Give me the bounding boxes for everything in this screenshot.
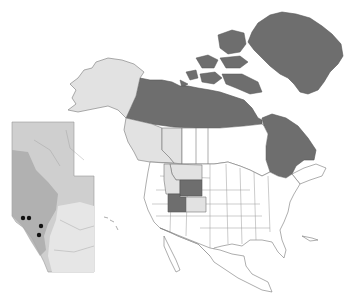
occurrence-point	[39, 224, 43, 228]
region-wyoming	[180, 180, 202, 196]
distribution-map	[0, 0, 349, 298]
region-cuba	[302, 236, 318, 241]
region-utah	[168, 194, 186, 212]
occurrence-point	[37, 233, 41, 237]
region-greenland	[248, 12, 343, 94]
region-hawaii	[104, 217, 118, 230]
region-colorado	[186, 197, 206, 212]
occurrence-point	[21, 216, 25, 220]
occurrence-point	[27, 216, 31, 220]
alberta-inset	[12, 122, 94, 272]
region-montana	[170, 164, 202, 180]
